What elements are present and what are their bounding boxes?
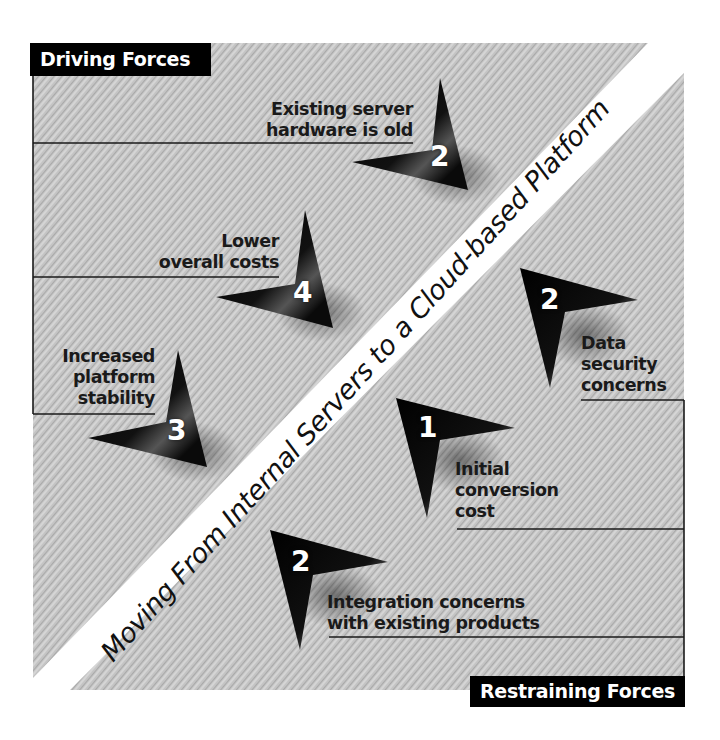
restraining-force-2-strength: 1 [418, 411, 437, 444]
restraining-forces-label: Restraining Forces [470, 676, 685, 707]
restraining-force-2-text: Initial conversion cost [455, 459, 615, 522]
driving-force-1-text: Existing server hardware is old [230, 99, 413, 141]
force-field-diagram: Driving Forces Restraining Forces Existi… [0, 0, 720, 740]
driving-force-2-strength: 4 [293, 276, 312, 309]
restraining-force-1-strength: 2 [540, 283, 559, 316]
driving-forces-label: Driving Forces [30, 43, 211, 76]
driving-force-1-strength: 2 [430, 140, 449, 173]
driving-force-3-text: Increased platform stability [35, 346, 155, 409]
driving-force-3-strength: 3 [167, 414, 186, 447]
driving-force-2-text: Lower overall costs [130, 231, 279, 273]
restraining-force-3-strength: 2 [291, 545, 310, 578]
restraining-force-3-text: Integration concerns with existing produ… [327, 592, 627, 634]
restraining-force-1-text: Data security concerns [581, 333, 691, 396]
